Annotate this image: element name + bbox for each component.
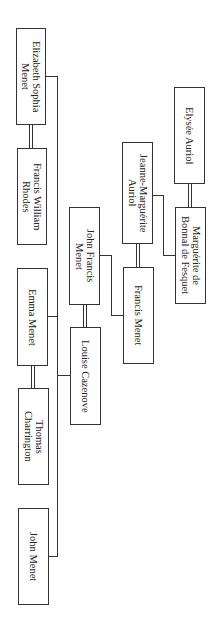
person-name: Emma Menet (27, 289, 38, 346)
stem-elizabeth (45, 76, 58, 77)
person-name: Francis Menet (133, 285, 144, 345)
person-name: Marguérite de Bonnal de Fesquet (180, 216, 202, 294)
person-francis-william-rhodes[interactable]: Francis William Rhodes (17, 148, 47, 245)
person-name: John Menet (28, 532, 39, 581)
person-louise-cazenove[interactable]: Louise Cazenove (70, 327, 101, 425)
stem-louise-couple (57, 375, 70, 376)
family-tree-diagram: Elizabeth Sophia Menet Francis William R… (0, 0, 219, 642)
person-name: Elizabeth Sophia Menet (20, 41, 42, 112)
connector-jeanne-h2 (163, 255, 175, 256)
person-john-francis-menet[interactable]: John Francis Menet (69, 207, 100, 305)
person-jeanne-marguerite-auriol[interactable]: Jeanne-Marguérite Auriol (122, 142, 153, 244)
person-thomas-charrington[interactable]: Thomas Charrington (18, 388, 49, 485)
person-marguerite-de-bonnal-de-fesquet[interactable]: Marguérite de Bonnal de Fesquet (175, 207, 206, 304)
person-john-menet[interactable]: John Menet (18, 508, 49, 605)
person-name: Francis William Rhodes (21, 163, 43, 230)
person-emma-menet[interactable]: Emma Menet (17, 268, 48, 366)
connector-john-francis-h2 (111, 315, 123, 316)
marriage-line-emma-thomas (31, 365, 35, 388)
stem-emma (47, 316, 58, 317)
person-elysee-auriol[interactable]: Elysée Auriol (174, 87, 205, 184)
connector-john-francis-v (111, 255, 112, 316)
marriage-line-elizabeth-francis (29, 124, 33, 148)
person-name: Louise Cazenove (80, 340, 91, 413)
person-elizabeth-sophia-menet[interactable]: Elizabeth Sophia Menet (16, 28, 46, 125)
person-name: Elysée Auriol (184, 107, 195, 164)
marriage-line-elysee-marguerite (188, 183, 192, 207)
marriage-line-johnfrancis-louise (83, 304, 87, 327)
person-name: John Francis Menet (74, 229, 96, 282)
person-francis-menet[interactable]: Francis Menet (123, 267, 154, 364)
connector-jeanne-v (163, 195, 164, 256)
marriage-line-jeanne-francis (136, 243, 140, 267)
person-name: Jeanne-Marguérite Auriol (127, 154, 149, 233)
person-name: Thomas Charrington (23, 411, 45, 462)
stem-john (49, 556, 58, 557)
